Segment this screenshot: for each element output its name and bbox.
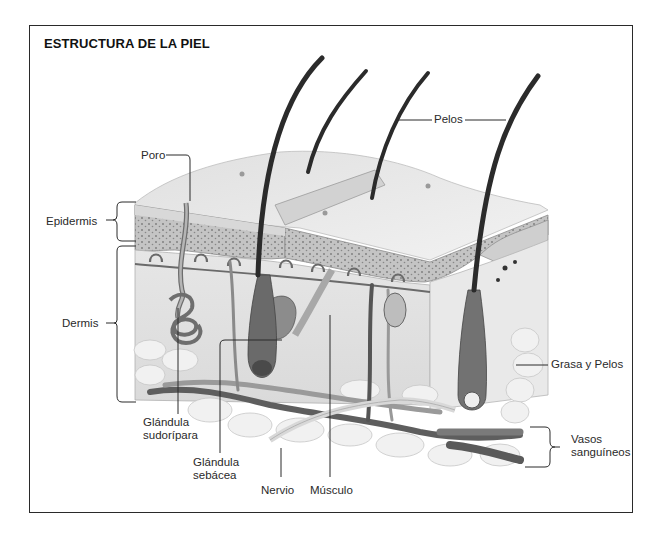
label-poro: Poro	[141, 149, 165, 162]
label-dermis: Dermis	[62, 317, 98, 330]
label-glandula-sudoripara-line1: Glándula	[143, 416, 189, 429]
label-glandula-sebacea-line1: Glándula	[193, 456, 239, 469]
label-pelos: Pelos	[434, 113, 463, 126]
label-glandula-sudoripara-line2: sudorípara	[143, 429, 198, 442]
skin-cross-section-illustration	[0, 0, 660, 539]
label-grasa-y-pelos: Grasa y Pelos	[551, 358, 623, 371]
label-epidermis: Epidermis	[46, 215, 97, 228]
label-vasos-line2: sanguíneos	[571, 446, 630, 459]
label-nervio: Nervio	[261, 484, 294, 497]
label-glandula-sebacea-line2: sebácea	[193, 469, 236, 482]
label-vasos-line1: Vasos	[571, 433, 602, 446]
label-musculo: Músculo	[310, 484, 353, 497]
